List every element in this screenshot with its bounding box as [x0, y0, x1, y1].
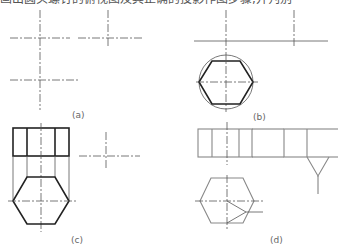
label-d: (d) [270, 235, 283, 245]
figure-c [8, 123, 140, 232]
figure-d [195, 122, 338, 230]
figure-a [10, 10, 143, 110]
label-a: (a) [72, 110, 85, 120]
figure-b [194, 10, 328, 112]
label-c: (c) [71, 235, 83, 245]
technical-drawing: .cl { stroke:#555; stroke-width:0.8; str… [0, 0, 338, 248]
label-b: (b) [253, 112, 266, 122]
